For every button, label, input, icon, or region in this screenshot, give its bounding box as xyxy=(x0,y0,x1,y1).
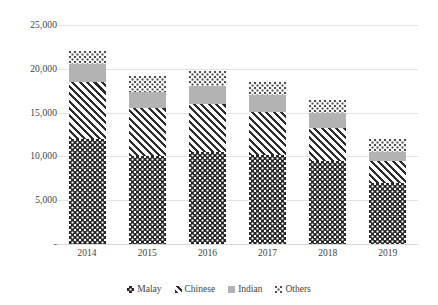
legend-item-indian[interactable]: Indian xyxy=(228,284,262,294)
bar-segment-indian[interactable] xyxy=(309,113,346,128)
x-axis-labels: 201420152016201720182019 xyxy=(57,248,418,266)
y-axis-tick-label: 20,000 xyxy=(5,64,57,74)
stacked-bar[interactable] xyxy=(189,71,226,244)
bar-column xyxy=(177,25,237,244)
y-axis-tick-label: 15,000 xyxy=(5,108,57,118)
bar-column xyxy=(298,25,358,244)
legend-item-others[interactable]: Others xyxy=(275,284,310,294)
stacked-bar[interactable] xyxy=(129,76,166,244)
bar-segment-indian[interactable] xyxy=(69,64,106,82)
x-axis-tick-label: 2019 xyxy=(358,248,418,266)
bar-segment-indian[interactable] xyxy=(129,92,166,109)
legend-item-malay[interactable]: Malay xyxy=(127,284,161,294)
bar-column xyxy=(358,25,418,244)
stacked-bar[interactable] xyxy=(369,139,406,244)
bar-segment-chinese[interactable] xyxy=(309,128,346,161)
bar-segment-malay[interactable] xyxy=(69,139,106,244)
legend-label: Indian xyxy=(238,284,262,294)
bar-segment-chinese[interactable] xyxy=(189,104,226,152)
stacked-bar[interactable] xyxy=(249,82,286,244)
bar-segment-others[interactable] xyxy=(249,82,286,95)
legend-label: Chinese xyxy=(185,284,216,294)
bar-segment-malay[interactable] xyxy=(309,161,346,244)
legend-swatch-icon xyxy=(127,286,134,293)
bar-segment-others[interactable] xyxy=(189,71,226,86)
y-axis-tick-label: - xyxy=(5,239,57,249)
stacked-bar-chart: 25,00020,00015,00010,0005,000- 201420152… xyxy=(0,0,438,305)
legend-label: Malay xyxy=(137,284,161,294)
y-axis-tick-label: 5,000 xyxy=(5,195,57,205)
bar-segment-others[interactable] xyxy=(129,76,166,92)
stacked-bar[interactable] xyxy=(69,51,106,244)
legend-swatch-icon xyxy=(275,286,282,293)
bar-segment-chinese[interactable] xyxy=(129,108,166,156)
x-axis-tick-label: 2016 xyxy=(177,248,237,266)
axis-baseline xyxy=(57,244,418,245)
bar-segment-others[interactable] xyxy=(309,100,346,112)
bar-segment-malay[interactable] xyxy=(129,156,166,244)
stacked-bar[interactable] xyxy=(309,100,346,244)
bar-segment-indian[interactable] xyxy=(369,152,406,161)
y-axis: 25,00020,00015,00010,0005,000- xyxy=(0,0,57,305)
legend-swatch-icon xyxy=(228,286,235,293)
x-axis-tick-label: 2015 xyxy=(117,248,177,266)
bar-segment-indian[interactable] xyxy=(249,95,286,112)
bar-column xyxy=(238,25,298,244)
bar-segment-malay[interactable] xyxy=(369,183,406,244)
bar-segment-malay[interactable] xyxy=(249,155,286,244)
x-axis-tick-label: 2018 xyxy=(298,248,358,266)
bar-segment-indian[interactable] xyxy=(189,86,226,104)
bar-group xyxy=(57,25,418,244)
bar-segment-others[interactable] xyxy=(369,139,406,152)
y-axis-tick-label: 25,000 xyxy=(5,20,57,30)
legend-label: Others xyxy=(285,284,310,294)
bar-segment-malay[interactable] xyxy=(189,152,226,244)
bar-column xyxy=(117,25,177,244)
chart-legend: MalayChineseIndianOthers xyxy=(0,281,438,297)
x-axis-tick-label: 2017 xyxy=(238,248,298,266)
bar-segment-chinese[interactable] xyxy=(369,161,406,183)
bar-column xyxy=(57,25,117,244)
x-axis-tick-label: 2014 xyxy=(57,248,117,266)
bar-segment-chinese[interactable] xyxy=(249,112,286,155)
legend-item-chinese[interactable]: Chinese xyxy=(175,284,216,294)
bar-segment-chinese[interactable] xyxy=(69,82,106,139)
plot-area xyxy=(57,25,418,244)
legend-swatch-icon xyxy=(175,286,182,293)
bar-segment-others[interactable] xyxy=(69,51,106,64)
y-axis-tick-label: 10,000 xyxy=(5,151,57,161)
